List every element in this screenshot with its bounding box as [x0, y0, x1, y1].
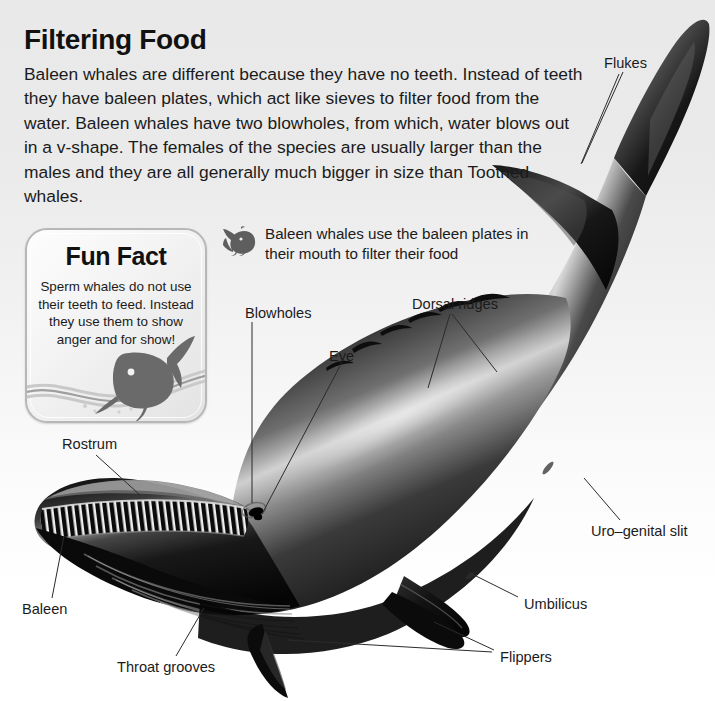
- leader-line-flukes-2: [581, 74, 619, 164]
- callout-dorsal-ridges: Dorsal ridges: [412, 296, 498, 313]
- leader-line-dorsal-b: [452, 314, 497, 372]
- leader-line-throat: [176, 608, 204, 656]
- leader-line-rostrum: [96, 455, 140, 495]
- callout-flukes: Flukes: [604, 55, 647, 72]
- leader-line-flippers-2: [288, 640, 492, 652]
- illustrated-page: Filtering Food Baleen whales are differe…: [0, 0, 715, 701]
- leader-line-urogenital: [584, 478, 620, 520]
- callout-flippers: Flippers: [500, 649, 552, 666]
- leader-line-flippers: [434, 622, 494, 650]
- callout-baleen: Baleen: [22, 601, 67, 618]
- callout-throat-grooves: Throat grooves: [117, 659, 215, 676]
- callout-eye: Eye: [329, 348, 354, 365]
- callout-leader-lines: [0, 0, 715, 701]
- leader-line-flukes: [582, 72, 623, 163]
- leader-line-baleen: [52, 536, 64, 598]
- callout-uro-genital-slit: Uro–genital slit: [591, 523, 688, 540]
- leader-line-dorsal-a: [428, 314, 450, 388]
- callout-blowholes: Blowholes: [245, 305, 312, 322]
- callout-umbilicus: Umbilicus: [524, 596, 587, 613]
- callout-rostrum: Rostrum: [62, 436, 117, 453]
- leader-line-umbilicus: [468, 572, 518, 597]
- leader-line-eye: [262, 366, 340, 514]
